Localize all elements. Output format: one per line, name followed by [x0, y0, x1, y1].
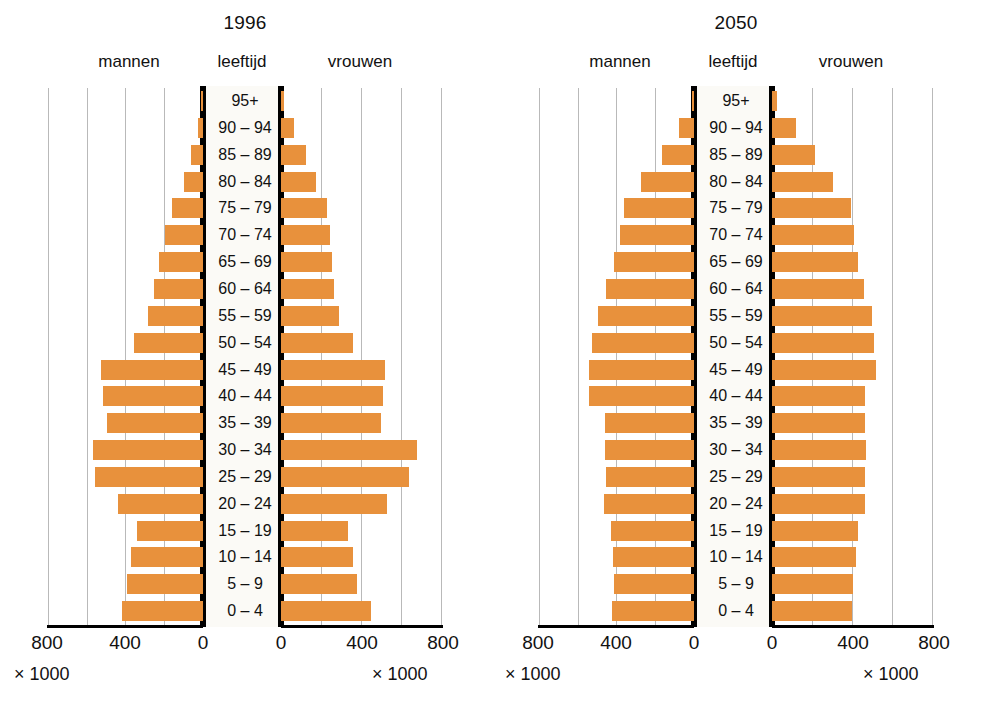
- unit-label-mannen: × 1000: [14, 664, 70, 685]
- age-band: [281, 598, 443, 625]
- bar-mannen: [148, 306, 203, 326]
- age-band: [281, 249, 443, 276]
- age-band-label: 5 – 9: [697, 571, 775, 598]
- age-label-column-1996: 95+90 – 9485 – 8980 – 8475 – 7970 – 7465…: [203, 86, 281, 627]
- age-band: [47, 115, 203, 142]
- age-band-label: 25 – 29: [206, 464, 284, 491]
- age-band: [772, 357, 934, 384]
- bar-vrouwen: [281, 547, 353, 567]
- bar-vrouwen: [772, 360, 876, 380]
- x-tick-label-mannen: 800: [515, 632, 561, 654]
- age-band-label: 35 – 39: [697, 410, 775, 437]
- age-band: [281, 518, 443, 545]
- x-tick-label-mannen: 400: [102, 632, 148, 654]
- age-band: [538, 303, 694, 330]
- age-band: [281, 276, 443, 303]
- age-band-label: 15 – 19: [697, 518, 775, 545]
- age-band: [538, 410, 694, 437]
- age-band: [47, 544, 203, 571]
- bar-mannen: [624, 198, 694, 218]
- age-band: [772, 491, 934, 518]
- age-band-label: 15 – 19: [206, 518, 284, 545]
- age-band: [47, 410, 203, 437]
- column-header-mannen: mannen: [546, 52, 694, 72]
- age-band-label: 20 – 24: [697, 491, 775, 518]
- axis-baseline: [281, 625, 443, 628]
- bar-mannen: [598, 306, 694, 326]
- age-band: [47, 249, 203, 276]
- column-header-vrouwen: vrouwen: [772, 52, 930, 72]
- age-band-label: 80 – 84: [206, 169, 284, 196]
- bar-vrouwen: [772, 413, 865, 433]
- population-pyramid-figure: 1996 mannen leeftijd vrouwen 95+90 – 948…: [0, 0, 981, 711]
- age-band: [47, 88, 203, 115]
- bar-vrouwen: [772, 118, 796, 138]
- age-band: [47, 142, 203, 169]
- age-band: [538, 169, 694, 196]
- x-tick-label-mannen: 400: [593, 632, 639, 654]
- x-tick-label-vrouwen: 0: [749, 632, 795, 654]
- age-band: [772, 88, 934, 115]
- age-band-label: 85 – 89: [697, 142, 775, 169]
- bar-vrouwen: [772, 172, 833, 192]
- plot-area-mannen-2050: [538, 88, 694, 625]
- age-band-label: 55 – 59: [206, 303, 284, 330]
- age-band: [538, 222, 694, 249]
- age-band: [281, 464, 443, 491]
- age-band-label: 90 – 94: [206, 115, 284, 142]
- panel-2050: 2050 mannen leeftijd vrouwen 95+90 – 948…: [491, 0, 981, 711]
- bar-mannen: [107, 413, 203, 433]
- bar-mannen: [604, 494, 694, 514]
- age-band: [538, 437, 694, 464]
- age-band: [281, 571, 443, 598]
- age-band: [772, 249, 934, 276]
- x-tick-label-vrouwen: 800: [911, 632, 957, 654]
- bar-vrouwen: [772, 252, 858, 272]
- x-tick-label-vrouwen: 800: [420, 632, 466, 654]
- bar-vrouwen: [772, 225, 854, 245]
- column-header-leeftijd: leeftijd: [203, 52, 281, 72]
- age-band: [47, 276, 203, 303]
- bar-vrouwen: [281, 225, 330, 245]
- x-tick-label-vrouwen: 0: [258, 632, 304, 654]
- bar-mannen: [605, 413, 695, 433]
- age-band: [538, 357, 694, 384]
- bar-mannen: [137, 521, 203, 541]
- bar-mannen: [606, 279, 694, 299]
- age-band: [772, 115, 934, 142]
- age-band: [281, 303, 443, 330]
- axis-baseline: [47, 625, 203, 628]
- age-band: [538, 491, 694, 518]
- age-band-label: 80 – 84: [697, 169, 775, 196]
- bar-vrouwen: [772, 198, 851, 218]
- age-band: [538, 518, 694, 545]
- age-band-label: 30 – 34: [697, 437, 775, 464]
- unit-label-vrouwen: × 1000: [863, 664, 919, 685]
- age-band: [47, 303, 203, 330]
- bar-mannen: [641, 172, 694, 192]
- age-band: [538, 464, 694, 491]
- age-band-label: 45 – 49: [697, 357, 775, 384]
- age-band: [772, 195, 934, 222]
- age-band: [281, 88, 443, 115]
- bar-vrouwen: [772, 494, 865, 514]
- age-band-label: 95+: [697, 88, 775, 115]
- age-band: [281, 491, 443, 518]
- age-band: [281, 195, 443, 222]
- age-band-label: 95+: [206, 88, 284, 115]
- age-band: [772, 303, 934, 330]
- age-band-label: 70 – 74: [206, 222, 284, 249]
- unit-label-mannen: × 1000: [505, 664, 561, 685]
- x-tick-label-mannen: 0: [180, 632, 226, 654]
- bar-vrouwen: [281, 172, 316, 192]
- bar-mannen: [95, 467, 203, 487]
- age-band: [47, 491, 203, 518]
- age-band-label: 90 – 94: [697, 115, 775, 142]
- age-band: [281, 437, 443, 464]
- bar-vrouwen: [281, 467, 409, 487]
- column-header-mannen: mannen: [55, 52, 203, 72]
- age-label-column-2050: 95+90 – 9485 – 8980 – 8475 – 7970 – 7465…: [694, 86, 772, 627]
- age-band: [538, 249, 694, 276]
- bar-mannen: [605, 440, 695, 460]
- age-band: [538, 142, 694, 169]
